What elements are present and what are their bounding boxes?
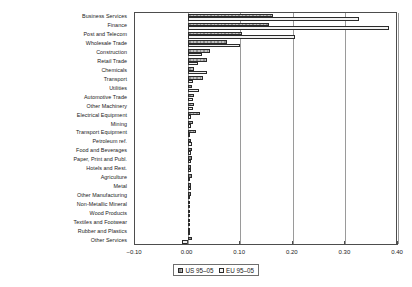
legend-label-eu: EU 95–05 — [226, 267, 254, 274]
bar-group — [135, 40, 396, 49]
bar-group — [135, 31, 396, 40]
bar-group — [135, 156, 396, 165]
legend-swatch-eu-icon — [219, 268, 224, 273]
bar-group — [135, 13, 396, 22]
x-tick — [134, 241, 135, 245]
category-label: Mining — [111, 121, 127, 127]
category-label: Electrical Equipment — [77, 112, 127, 118]
category-label: Automotive Trade — [84, 94, 127, 100]
category-label: Textiles and Footwear — [74, 219, 127, 225]
bar-group — [135, 200, 396, 209]
bar-group — [135, 191, 396, 200]
x-tick-label: 0.20 — [286, 249, 298, 255]
category-label: Other Machinery — [86, 103, 127, 109]
bar-group — [135, 138, 396, 147]
category-label: Hotels and Rest. — [86, 165, 127, 171]
category-label: Metal — [114, 183, 127, 189]
legend-entry-us: US 95–05 — [178, 267, 214, 274]
category-label: Chemicals — [101, 67, 127, 73]
bar-group — [135, 22, 396, 31]
bar-eu — [188, 35, 296, 38]
category-label: Transport — [104, 76, 127, 82]
category-label: Other Services — [91, 237, 127, 243]
bar-group — [135, 218, 396, 227]
bar-group — [135, 227, 396, 236]
bar-eu — [188, 71, 207, 74]
x-tick — [344, 241, 345, 245]
x-tick — [239, 241, 240, 245]
x-axis: −0.100.000.100.200.300.40 — [134, 244, 397, 245]
category-label: Retail Trade — [97, 58, 127, 64]
category-label: Non-Metallic Mineral — [77, 201, 127, 207]
bar-eu — [188, 98, 193, 101]
chart-legend: US 95–05 EU 95–05 — [173, 264, 259, 276]
bar-group — [135, 75, 396, 84]
bar-eu — [188, 205, 191, 208]
x-tick — [187, 241, 188, 245]
x-tick — [397, 241, 398, 245]
bar-eu — [188, 142, 193, 145]
bar-eu — [188, 89, 200, 92]
category-label: Food and Beverages — [76, 147, 127, 153]
bar-eu — [188, 107, 194, 110]
category-label: Post and Telecom — [83, 31, 127, 37]
category-label: Rubber and Plastics — [78, 228, 127, 234]
bar-eu — [188, 214, 190, 217]
legend-swatch-us-icon — [178, 268, 183, 273]
bar-eu — [188, 223, 190, 226]
bar-eu — [188, 160, 192, 163]
x-tick — [292, 241, 293, 245]
category-axis-labels: Business ServicesFinancePost and Telecom… — [0, 12, 131, 244]
bar-group — [135, 209, 396, 218]
x-tick-label: 0.40 — [391, 249, 403, 255]
category-label: Construction — [96, 49, 127, 55]
bar-eu — [188, 151, 191, 154]
bar-eu — [188, 231, 190, 234]
chart-container: Business ServicesFinancePost and Telecom… — [0, 0, 412, 287]
bar-eu — [188, 169, 192, 172]
bar-group — [135, 67, 396, 76]
bar-group — [135, 120, 396, 129]
bar-eu — [188, 80, 194, 83]
bar-group — [135, 49, 396, 58]
bar-group — [135, 165, 396, 174]
bar-group — [135, 58, 396, 67]
bar-eu — [188, 124, 192, 127]
category-label: Finance — [107, 22, 127, 28]
bar-eu — [188, 178, 191, 181]
bar-eu — [188, 53, 203, 56]
category-label: Petroleum ref. — [92, 138, 127, 144]
bar-eu — [188, 133, 191, 136]
category-label: Other Manufacturing — [77, 192, 127, 198]
gridline — [398, 13, 399, 244]
bar-group — [135, 147, 396, 156]
category-label: Wholesale Trade — [86, 40, 127, 46]
bar-eu — [188, 196, 191, 199]
bar-group — [135, 174, 396, 183]
bar-group — [135, 129, 396, 138]
bar-eu — [188, 187, 192, 190]
bar-group — [135, 183, 396, 192]
legend-label-us: US 95–05 — [186, 267, 214, 274]
category-label: Business Services — [82, 13, 127, 19]
bar-eu — [188, 17, 359, 20]
bar-group — [135, 93, 396, 102]
category-label: Utilities — [109, 85, 127, 91]
bar-eu — [188, 44, 241, 47]
bar-group — [135, 102, 396, 111]
bar-eu — [188, 26, 389, 29]
category-label: Paper, Print and Publ. — [73, 156, 127, 162]
category-label: Wood Products — [90, 210, 127, 216]
legend-entry-eu: EU 95–05 — [219, 267, 255, 274]
x-tick-label: 0.30 — [339, 249, 351, 255]
x-tick-label: 0.10 — [233, 249, 245, 255]
bar-eu — [188, 115, 191, 118]
bar-us — [188, 237, 192, 240]
x-tick-label: −0.10 — [126, 249, 141, 255]
x-tick-label: 0.00 — [181, 249, 193, 255]
category-label: Transport Equipment — [76, 129, 127, 135]
plot-area — [134, 12, 397, 244]
bar-eu — [188, 62, 199, 65]
bar-group — [135, 111, 396, 120]
category-label: Agriculture — [101, 174, 127, 180]
